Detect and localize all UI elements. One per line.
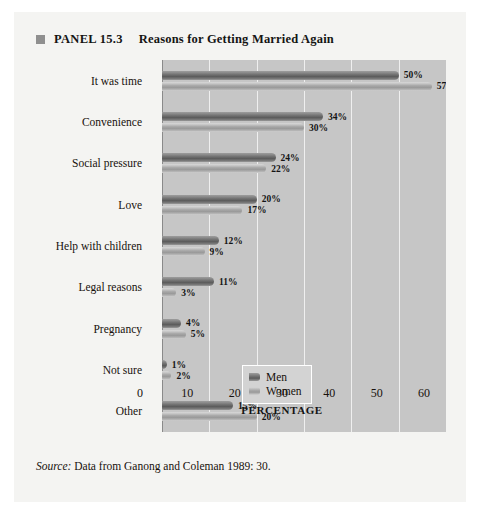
x-axis-label: PERCENTAGE bbox=[140, 404, 424, 416]
bar-value-label: 3% bbox=[181, 288, 195, 298]
category-label: Social pressure bbox=[72, 157, 142, 169]
category-label: Not sure bbox=[103, 364, 142, 376]
category-label: Legal reasons bbox=[78, 281, 142, 293]
category-label: Pregnancy bbox=[93, 323, 142, 335]
bar-value-label: 2% bbox=[176, 371, 190, 381]
bar-men bbox=[162, 195, 257, 204]
bar-value-label: 11% bbox=[219, 277, 237, 287]
bar-women bbox=[162, 123, 304, 132]
bar-men bbox=[162, 236, 219, 245]
x-axis: 0102030405060 bbox=[140, 384, 424, 406]
category-label: Other bbox=[116, 405, 142, 417]
bar-women bbox=[162, 164, 266, 173]
legend-label: Men bbox=[266, 371, 287, 383]
bar-value-label: 20% bbox=[262, 194, 281, 204]
panel-heading: PANEL 15.3 Reasons for Getting Married A… bbox=[36, 32, 334, 47]
bar-men bbox=[162, 153, 276, 162]
gridline bbox=[399, 60, 400, 432]
category-label: Convenience bbox=[82, 116, 142, 128]
category-label: It was time bbox=[91, 75, 142, 87]
bar-women bbox=[162, 288, 176, 297]
x-tick-label: 30 bbox=[276, 386, 288, 401]
bar-value-label: 22% bbox=[271, 164, 290, 174]
bar-men bbox=[162, 360, 167, 369]
x-tick-label: 20 bbox=[229, 386, 241, 401]
bar-women bbox=[162, 247, 205, 256]
source-text: Data from Ganong and Coleman 1989: 30. bbox=[74, 460, 270, 472]
bar-women bbox=[162, 371, 171, 380]
bar-men bbox=[162, 319, 181, 328]
category-axis: It was timeConvenienceSocial pressureLov… bbox=[36, 60, 148, 432]
bar-value-label: 24% bbox=[281, 153, 300, 163]
bar-value-label: 9% bbox=[210, 247, 224, 257]
chart: It was timeConvenienceSocial pressureLov… bbox=[36, 60, 446, 432]
panel-label: PANEL 15.3 bbox=[54, 32, 123, 47]
page-title: Reasons for Getting Married Again bbox=[139, 32, 334, 47]
bar-women bbox=[162, 206, 242, 215]
bar-women bbox=[162, 82, 432, 91]
category-label: Love bbox=[118, 199, 142, 211]
bar-value-label: 34% bbox=[328, 112, 347, 122]
x-tick-label: 50 bbox=[371, 386, 383, 401]
bar-men bbox=[162, 112, 323, 121]
bar-men bbox=[162, 277, 214, 286]
bar-value-label: 5% bbox=[191, 329, 205, 339]
square-bullet-icon bbox=[36, 35, 45, 44]
bar-value-label: 4% bbox=[186, 318, 200, 328]
x-tick-label: 60 bbox=[418, 386, 430, 401]
bar-value-label: 57% bbox=[437, 81, 446, 91]
x-tick-label: 10 bbox=[181, 386, 193, 401]
source-label: Source: bbox=[36, 460, 71, 472]
bar-women bbox=[162, 330, 186, 339]
bar-value-label: 1% bbox=[172, 360, 186, 370]
bar-value-label: 12% bbox=[224, 236, 243, 246]
bar-value-label: 30% bbox=[309, 123, 328, 133]
legend-item: Men bbox=[249, 370, 301, 384]
panel-container: PANEL 15.3 Reasons for Getting Married A… bbox=[14, 12, 466, 502]
source-note: Source: Data from Ganong and Coleman 198… bbox=[36, 460, 271, 472]
bar-value-label: 50% bbox=[404, 70, 423, 80]
category-label: Help with children bbox=[56, 240, 142, 252]
bar-men bbox=[162, 71, 399, 80]
x-tick-label: 0 bbox=[137, 386, 143, 401]
bar-value-label: 17% bbox=[247, 205, 266, 215]
gridline bbox=[351, 60, 352, 432]
legend-swatch-icon bbox=[249, 373, 260, 381]
x-tick-label: 40 bbox=[323, 386, 335, 401]
